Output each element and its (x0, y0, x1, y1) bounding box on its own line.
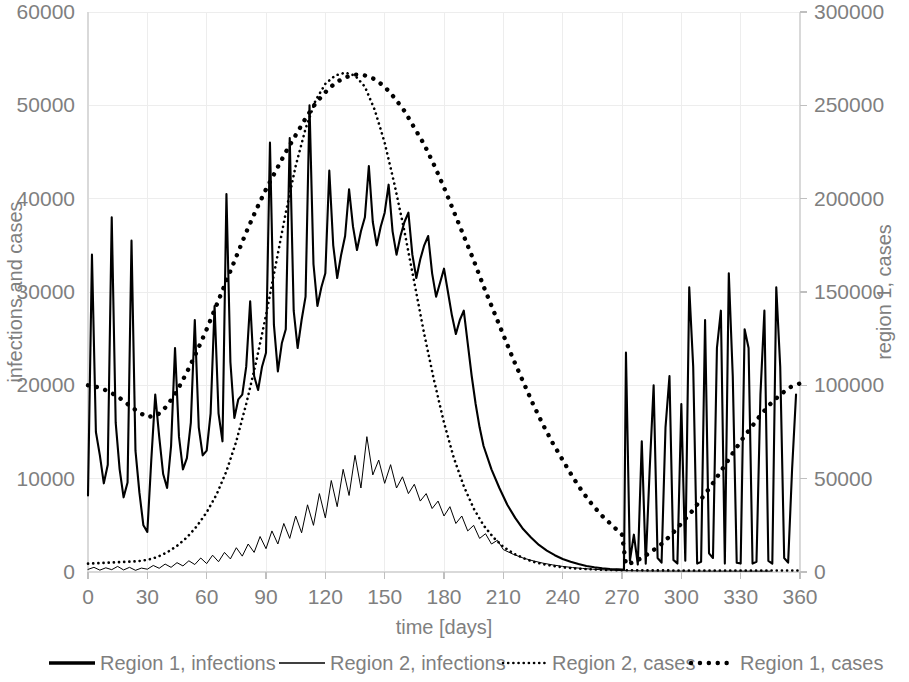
x-axis-tick-label: 60 (195, 585, 218, 608)
x-axis-tick-label: 330 (723, 585, 758, 608)
y-axis-left-tick-label: 60000 (17, 0, 75, 23)
x-axis-tick-label: 240 (545, 585, 580, 608)
chart-container: 0100002000030000400005000060000050000100… (0, 0, 909, 682)
x-axis-tick-label: 120 (308, 585, 343, 608)
legend-label-region-1-infections[interactable]: Region 1, infections (100, 652, 276, 674)
x-axis-tick-label: 270 (604, 585, 639, 608)
x-axis-tick-label: 90 (254, 585, 277, 608)
x-axis-tick-label: 360 (782, 585, 817, 608)
y-axis-left-title: infections and cases (4, 201, 26, 382)
x-axis-title: time [days] (396, 616, 493, 638)
y-axis-right-tick-label: 250000 (814, 93, 884, 116)
x-axis-tick-label: 0 (82, 585, 94, 608)
x-axis-tick-label: 150 (367, 585, 402, 608)
y-axis-right-tick-label: 300000 (814, 0, 884, 23)
y-axis-right-tick-label: 200000 (814, 187, 884, 210)
series-line-region-1-infections (88, 105, 796, 569)
x-axis-tick-label: 180 (426, 585, 461, 608)
y-axis-left-tick-label: 10000 (17, 467, 75, 490)
legend-label-region-1-cases[interactable]: Region 1, cases (740, 652, 883, 674)
legend: Region 1, infectionsRegion 2, infections… (49, 652, 883, 674)
x-axis-tick-label: 210 (486, 585, 521, 608)
y-axis-left-tick-label: 50000 (17, 93, 75, 116)
legend-label-region-2-cases[interactable]: Region 2, cases (552, 652, 695, 674)
series-line-region-2-infections (88, 437, 770, 571)
x-axis-tick-label: 30 (136, 585, 159, 608)
x-axis-tick-label: 300 (664, 585, 699, 608)
y-axis-right-tick-label: 50000 (814, 467, 872, 490)
y-axis-right-title: region 1, cases (873, 224, 895, 360)
y-axis-right-tick-label: 100000 (814, 373, 884, 396)
y-axis-right-tick-label: 0 (814, 560, 826, 583)
y-axis-left-tick-label: 0 (63, 560, 75, 583)
gridlines-layer (88, 12, 800, 572)
chart-canvas: 0100002000030000400005000060000050000100… (0, 0, 909, 682)
legend-label-region-2-infections[interactable]: Region 2, infections (330, 652, 506, 674)
